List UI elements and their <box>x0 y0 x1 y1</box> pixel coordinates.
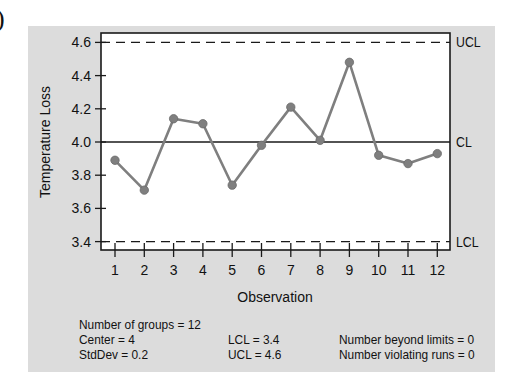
x-tick-label: 3 <box>170 262 178 278</box>
x-axis-label: Observation <box>237 289 312 305</box>
data-point <box>140 186 148 194</box>
stat-beyond-limits: Number beyond limits = 0 <box>339 332 474 347</box>
data-point <box>257 141 265 149</box>
y-tick-label: 3.6 <box>72 200 92 216</box>
stat-lcl: LCL = 3.4 <box>228 332 279 347</box>
stat-center: Center = 4 <box>79 332 135 347</box>
data-point <box>111 156 119 164</box>
reference-label-cl: CL <box>456 134 472 150</box>
x-tick-label: 11 <box>401 262 416 278</box>
y-tick-label: 4.2 <box>72 101 92 117</box>
reference-label-lcl: LCL <box>456 234 479 250</box>
y-tick-label: 4.4 <box>72 68 92 84</box>
data-point <box>199 120 207 128</box>
data-point <box>287 103 295 111</box>
data-point <box>169 115 177 123</box>
x-tick-label: 5 <box>228 262 236 278</box>
y-tick-label: 3.8 <box>72 167 92 183</box>
x-tick-label: 12 <box>430 262 446 278</box>
x-tick-label: 9 <box>346 262 354 278</box>
y-tick-label: 4.6 <box>72 34 92 50</box>
data-point <box>404 159 412 167</box>
x-tick-label: 7 <box>287 262 295 278</box>
x-tick-label: 10 <box>371 262 387 278</box>
data-point <box>345 58 353 66</box>
x-tick-label: 6 <box>258 262 266 278</box>
stat-ucl: UCL = 4.6 <box>228 347 281 362</box>
stat-violating-runs: Number violating runs = 0 <box>339 347 475 362</box>
x-tick-label: 4 <box>199 262 207 278</box>
reference-label-ucl: UCL <box>456 35 481 51</box>
y-axis-label: Temperature Loss <box>37 86 53 198</box>
data-point <box>228 181 236 189</box>
stat-stddev: StdDev = 0.2 <box>79 347 148 362</box>
y-tick-label: 4.0 <box>72 134 92 150</box>
data-point <box>316 136 324 144</box>
x-tick-label: 8 <box>316 262 324 278</box>
data-point <box>375 151 383 159</box>
data-point <box>433 149 441 157</box>
y-tick-label: 3.4 <box>72 234 92 250</box>
x-tick-label: 2 <box>140 262 148 278</box>
x-tick-label: 1 <box>111 262 119 278</box>
stat-groups: Number of groups = 12 <box>79 317 201 332</box>
